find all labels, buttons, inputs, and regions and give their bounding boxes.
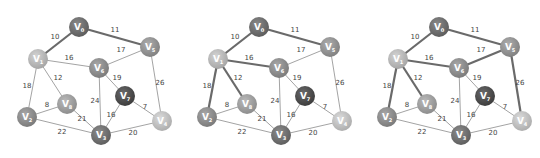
- edge-weight-label: 10: [411, 33, 420, 41]
- edge-weight-label: 11: [291, 26, 300, 34]
- node-v4: V4: [152, 111, 172, 131]
- node-v8: V8: [417, 94, 437, 114]
- edge-weight-label: 11: [471, 26, 480, 34]
- node-subscript: 0: [441, 27, 445, 33]
- node-subscript: 0: [81, 27, 85, 33]
- graph-panel-step-3: 1011161712188222124191672026V0V1V2V3V4V5…: [360, 0, 540, 158]
- edge-weight-label: 26: [156, 79, 165, 87]
- edge-weight-label: 11: [111, 26, 120, 34]
- graph-panel-step-1: 1011161712188222124191672026V0V1V2V3V4V5…: [0, 0, 180, 158]
- node-subscript: 4: [164, 121, 168, 127]
- edge-weight-label: 19: [473, 74, 482, 82]
- node-v0: V0: [429, 17, 449, 37]
- node-v6: V6: [89, 58, 109, 78]
- edge-weight-label: 24: [271, 97, 280, 105]
- edge-weight-label: 17: [117, 46, 126, 54]
- node-subscript: 5: [332, 47, 336, 53]
- edge-weight-label: 18: [203, 82, 212, 90]
- node-subscript: 3: [103, 135, 107, 141]
- node-subscript: 2: [29, 117, 33, 123]
- edge-weight-label: 18: [383, 82, 392, 90]
- edge-weight-label: 20: [129, 129, 138, 137]
- edge-weight-label: 12: [54, 74, 63, 82]
- node-v1: V1: [28, 49, 48, 69]
- node-v5: V5: [320, 37, 340, 57]
- nodes: V0V1V2V3V4V5V6V7V8: [377, 17, 532, 145]
- edge-weight-label: 21: [258, 115, 267, 123]
- node-subscript: 3: [463, 135, 467, 141]
- node-v2: V2: [17, 107, 37, 127]
- edge-weight-label: 7: [503, 103, 507, 111]
- edge-weight-label: 8: [225, 101, 229, 109]
- node-subscript: 7: [307, 96, 311, 102]
- node-subscript: 0: [261, 27, 265, 33]
- edge-weight-label: 8: [405, 101, 409, 109]
- node-v6: V6: [269, 58, 289, 78]
- graph-canvas: 1011161712188222124191672026V0V1V2V3V4V5…: [0, 0, 180, 158]
- node-v3: V3: [91, 125, 111, 145]
- node-v1: V1: [388, 49, 408, 69]
- edge-weight-label: 22: [238, 128, 247, 136]
- graph-canvas: 1011161712188222124191672026V0V1V2V3V4V5…: [180, 0, 360, 158]
- edge-weight-label: 16: [287, 111, 296, 119]
- edge-weight-label: 21: [78, 115, 87, 123]
- node-subscript: 6: [281, 68, 285, 74]
- edge-weight-label: 12: [414, 74, 423, 82]
- edge-weight-label: 26: [336, 79, 345, 87]
- edge-weight-label: 10: [51, 33, 60, 41]
- edge-weight-label: 19: [113, 74, 122, 82]
- node-subscript: 1: [220, 59, 224, 65]
- node-v3: V3: [451, 125, 471, 145]
- node-v8: V8: [237, 94, 257, 114]
- node-subscript: 6: [461, 68, 465, 74]
- node-subscript: 7: [487, 96, 491, 102]
- edge-weight-label: 22: [418, 128, 427, 136]
- node-v3: V3: [271, 125, 291, 145]
- node-subscript: 6: [101, 68, 105, 74]
- edge-weight-label: 7: [143, 103, 147, 111]
- edge-weight-label: 17: [477, 46, 486, 54]
- node-subscript: 5: [512, 47, 516, 53]
- node-v4: V4: [332, 111, 352, 131]
- nodes: V0V1V2V3V4V5V6V7V8: [17, 17, 172, 145]
- edge-weight-label: 10: [231, 33, 240, 41]
- node-v7: V7: [115, 86, 135, 106]
- edge-weight-label: 20: [489, 129, 498, 137]
- edge-weight-label: 16: [467, 111, 476, 119]
- node-subscript: 1: [400, 59, 404, 65]
- node-v5: V5: [140, 37, 160, 57]
- edge-weight-label: 16: [245, 54, 254, 62]
- node-v1: V1: [208, 49, 228, 69]
- node-subscript: 2: [209, 117, 213, 123]
- node-subscript: 2: [389, 117, 393, 123]
- edge-weight-label: 21: [438, 115, 447, 123]
- node-v0: V0: [249, 17, 269, 37]
- edge-weight-label: 7: [323, 103, 327, 111]
- node-v8: V8: [57, 94, 77, 114]
- edge-weight-label: 16: [107, 111, 116, 119]
- edge-weight-label: 18: [23, 82, 32, 90]
- graph-canvas: 1011161712188222124191672026V0V1V2V3V4V5…: [360, 0, 540, 158]
- edge-weight-label: 16: [425, 54, 434, 62]
- edge-weight-label: 19: [293, 74, 302, 82]
- node-v7: V7: [295, 86, 315, 106]
- node-subscript: 1: [40, 59, 44, 65]
- edge-weight-label: 8: [45, 101, 49, 109]
- graph-panel-step-2: 1011161712188222124191672026V0V1V2V3V4V5…: [180, 0, 360, 158]
- node-subscript: 8: [429, 104, 433, 110]
- node-subscript: 7: [127, 96, 131, 102]
- node-subscript: 4: [344, 121, 348, 127]
- edge-weight-label: 20: [309, 129, 318, 137]
- edge-weight-label: 22: [58, 128, 67, 136]
- node-subscript: 8: [249, 104, 253, 110]
- nodes: V0V1V2V3V4V5V6V7V8: [197, 17, 352, 145]
- node-v5: V5: [500, 37, 520, 57]
- node-v4: V4: [512, 111, 532, 131]
- node-subscript: 3: [283, 135, 287, 141]
- node-subscript: 5: [152, 47, 156, 53]
- node-subscript: 4: [524, 121, 528, 127]
- edge-weight-label: 12: [234, 74, 243, 82]
- node-v2: V2: [377, 107, 397, 127]
- edge-weight-label: 17: [297, 46, 306, 54]
- edge-weight-label: 26: [516, 79, 525, 87]
